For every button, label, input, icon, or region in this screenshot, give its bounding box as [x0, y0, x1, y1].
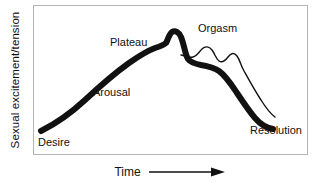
arrow-right-icon [149, 166, 227, 178]
label-plateau: Plateau [110, 36, 147, 48]
label-arousal: Arousal [93, 86, 130, 98]
sexual-response-cycle-figure: Sexual excitement/tension Desire Arousal… [0, 0, 320, 183]
y-axis-label-text: Sexual excitement/tension [9, 12, 21, 149]
x-axis-label-text: Time [114, 165, 140, 179]
primary-response-curve [41, 31, 273, 131]
label-desire: Desire [38, 136, 70, 148]
x-axis-caption: Time [33, 160, 308, 183]
label-resolution: Resolution [250, 124, 302, 136]
label-orgasm: Orgasm [198, 22, 237, 34]
y-axis-label: Sexual excitement/tension [0, 0, 30, 160]
